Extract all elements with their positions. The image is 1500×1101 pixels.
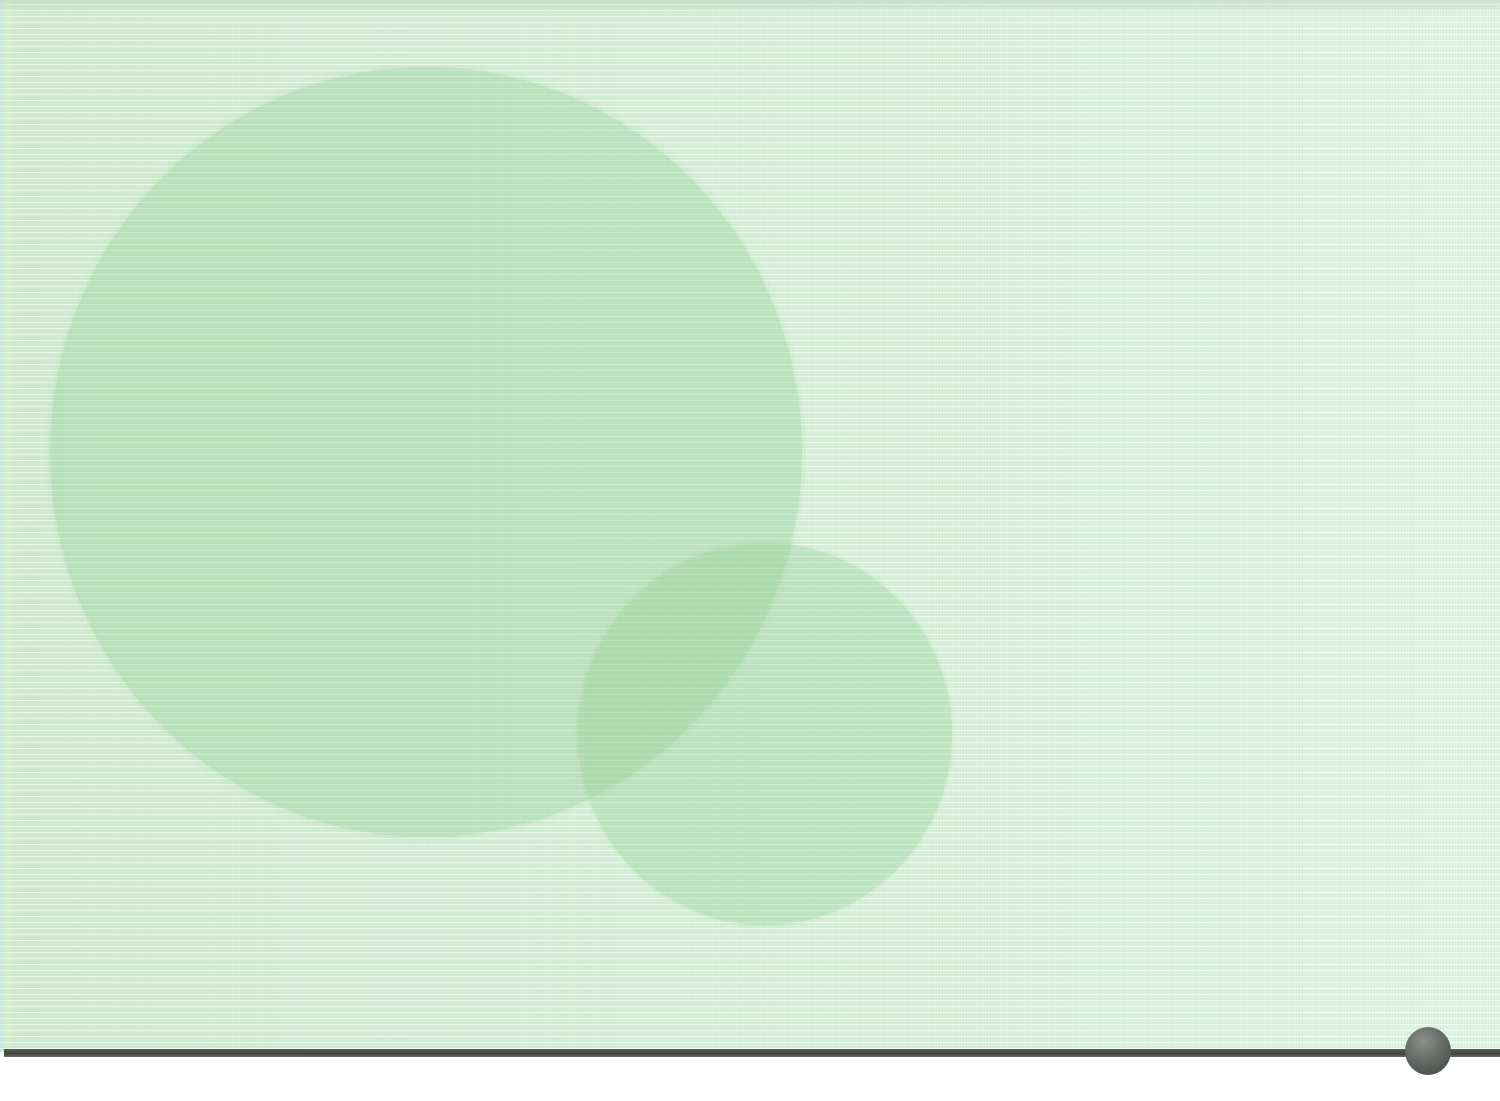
top-edge-shadow	[0, 0, 1500, 14]
lined-green-paper-background	[0, 0, 1500, 1052]
grey-sphere-ornament-icon	[1405, 1027, 1451, 1075]
stationery-page	[0, 0, 1500, 1101]
small-translucent-circle	[578, 543, 952, 925]
bottom-horizontal-rule	[4, 1049, 1500, 1057]
